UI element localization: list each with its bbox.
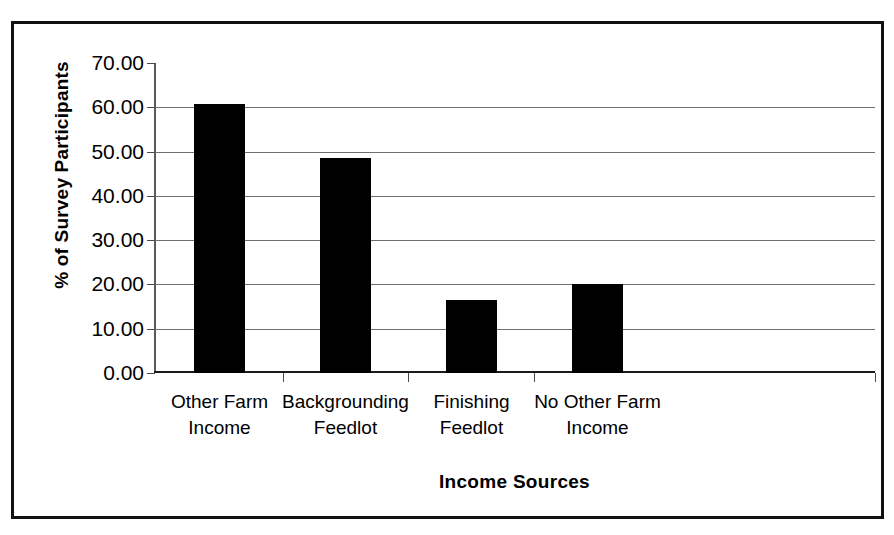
y-axis-tick-label: 0.00	[103, 361, 144, 385]
x-axis-title: Income Sources	[154, 471, 875, 493]
bar	[572, 284, 623, 373]
x-axis-tick	[875, 373, 876, 382]
y-axis-tick	[147, 63, 155, 64]
plot-area: 70.0060.0050.0040.0030.0020.0010.000.00 …	[154, 63, 875, 373]
category-label-line: No Other Farm	[534, 389, 661, 415]
y-axis-tick	[147, 107, 155, 108]
y-axis-tick-label: 20.00	[91, 272, 144, 296]
figure-frame: % of Survey Participants 70.0060.0050.00…	[11, 21, 884, 519]
y-axis-tick	[147, 196, 155, 197]
gridline	[154, 329, 875, 330]
category-label-line: Backgrounding	[282, 389, 409, 415]
chart-screenshot: % of Survey Participants 70.0060.0050.00…	[0, 0, 894, 535]
bar	[194, 104, 245, 373]
x-axis-tick	[534, 373, 535, 382]
y-axis-tick-label: 10.00	[91, 317, 144, 341]
gridline	[154, 284, 875, 285]
y-axis-tick	[147, 152, 155, 153]
bar	[446, 300, 497, 373]
x-axis-category-label: Other FarmIncome	[171, 389, 268, 441]
y-axis-tick	[147, 373, 155, 374]
category-label-line: Income	[534, 415, 661, 441]
category-label-line: Feedlot	[282, 415, 409, 441]
category-label-line: Finishing	[433, 389, 509, 415]
category-label-line: Income	[171, 415, 268, 441]
y-axis-tick-label: 30.00	[91, 228, 144, 252]
y-axis-tick	[147, 329, 155, 330]
category-label-line: Feedlot	[433, 415, 509, 441]
x-axis-tick	[283, 373, 284, 382]
x-axis-tick	[408, 373, 409, 382]
y-axis-tick-label: 50.00	[91, 140, 144, 164]
category-label-line: Other Farm	[171, 389, 268, 415]
y-axis-line	[154, 63, 156, 373]
gridline	[154, 196, 875, 197]
x-axis-category-label: No Other FarmIncome	[534, 389, 661, 441]
x-axis-baseline	[154, 371, 875, 373]
bar	[320, 158, 371, 373]
y-axis-tick	[147, 284, 155, 285]
y-axis-title: % of Survey Participants	[51, 45, 73, 305]
x-axis-category-label: FinishingFeedlot	[433, 389, 509, 441]
y-axis-tick-label: 70.00	[91, 51, 144, 75]
y-axis-tick	[147, 240, 155, 241]
gridline	[154, 107, 875, 108]
y-axis-tick-label: 40.00	[91, 184, 144, 208]
x-axis-category-label: BackgroundingFeedlot	[282, 389, 409, 441]
y-axis-tick-label: 60.00	[91, 95, 144, 119]
gridline	[154, 240, 875, 241]
gridline	[154, 152, 875, 153]
